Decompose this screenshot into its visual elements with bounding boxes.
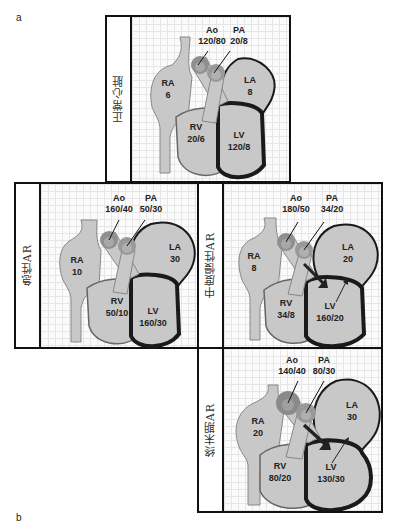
ra-value: 20 [253, 428, 263, 438]
pa-name: PA [326, 193, 338, 203]
rv-name: RV [111, 296, 123, 306]
la-value: 20 [343, 254, 353, 264]
panel-letter-a: a [16, 12, 22, 23]
lv-name: LV [325, 301, 336, 311]
pa-value: 20/8 [230, 36, 248, 46]
lv-name: LV [326, 462, 337, 472]
pa-name: PA [233, 25, 245, 35]
heart-diagram: Ao 120/80 PA 20/8 RA 6 LA 8 RV 20/6 LV 1… [132, 17, 290, 181]
rv-name: RV [280, 298, 292, 308]
la-value: 8 [247, 87, 252, 97]
pa-value: 80/30 [313, 366, 336, 376]
left-ventricle-shape [306, 277, 364, 346]
lv-name: LV [234, 130, 245, 140]
panel-label: 终末期AR [203, 403, 219, 457]
panel-label: 急性AR [20, 244, 36, 286]
ra-name: RA [248, 251, 261, 261]
ra-name: RA [252, 416, 265, 426]
ao-value: 160/40 [105, 204, 133, 214]
pa-value: 34/20 [321, 204, 344, 214]
ao-value: 120/80 [198, 36, 226, 46]
pa-value: 50/30 [140, 204, 163, 214]
panel-label-column: 急性AR [16, 184, 41, 347]
rv-name: RV [274, 461, 286, 471]
panel-label-column: 正常心脏 [107, 17, 132, 181]
ra-value: 10 [72, 267, 82, 277]
panel-normal-heart: 正常心脏 Ao 120/80 PA 20/8 RA 6 LA 8 RV 20/6… [105, 15, 291, 183]
lv-value: 160/20 [316, 313, 344, 323]
la-name: LA [342, 242, 354, 252]
rv-value: 80/20 [269, 473, 292, 483]
ra-name: RA [71, 255, 84, 265]
lv-name: LV [148, 306, 159, 316]
ao-name: Ao [113, 193, 125, 203]
lv-value: 130/30 [317, 474, 345, 484]
rv-value: 34/8 [277, 310, 295, 320]
ra-value: 6 [165, 90, 170, 100]
la-name: LA [346, 400, 358, 410]
ao-value: 180/50 [282, 204, 310, 214]
ao-value: 140/40 [278, 366, 306, 376]
ra-value: 8 [251, 263, 256, 273]
panel-end-stage-ar: 终末期AR Ao 140/40 PA 80/30 RA 20 LA 30 RV … [197, 347, 383, 513]
ao-name: Ao [206, 25, 218, 35]
la-value: 30 [347, 412, 357, 422]
panel-label: 正常心脏 [111, 75, 127, 123]
panel-label-column: 终末期AR [199, 349, 224, 511]
heart-diagram: Ao 180/50 PA 34/20 RA 8 LA 20 RV 34/8 LV… [224, 184, 382, 348]
ao-name: Ao [286, 355, 298, 365]
rv-name: RV [190, 122, 202, 132]
panel-label-column: 中度慢性AR [199, 184, 224, 347]
panel-letter-b: b [16, 512, 22, 523]
rv-value: 50/10 [106, 308, 129, 318]
left-ventricle-shape [218, 103, 264, 177]
la-value: 30 [170, 254, 180, 264]
lv-value: 120/8 [228, 142, 251, 152]
la-name: LA [169, 242, 181, 252]
panel-chronic-moderate-ar: 中度慢性AR Ao 180/50 PA 34/20 RA 8 LA 20 RV … [197, 182, 383, 349]
ra-name: RA [162, 78, 175, 88]
ao-name: Ao [290, 193, 302, 203]
panel-acute-ar: 急性AR Ao 160/40 PA 50/30 RA 10 LA 30 RV 5… [14, 182, 200, 349]
heart-diagram: Ao 160/40 PA 50/30 RA 10 LA 30 RV 50/10 … [41, 184, 199, 348]
pa-name: PA [318, 355, 330, 365]
panel-label: 中度慢性AR [203, 232, 219, 298]
lv-value: 160/30 [139, 318, 167, 328]
pa-name: PA [145, 193, 157, 203]
heart-diagram: Ao 140/40 PA 80/30 RA 20 LA 30 RV 80/20 … [224, 349, 382, 511]
la-name: LA [244, 75, 256, 85]
rv-value: 20/6 [187, 134, 205, 144]
